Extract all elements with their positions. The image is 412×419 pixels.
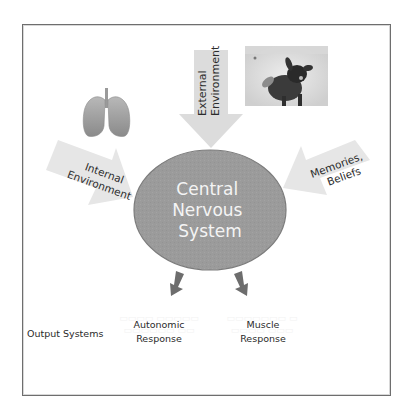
autonomic-line-1: Autonomic — [120, 318, 198, 332]
central-nervous-system: Central Nervous System — [134, 150, 286, 270]
external-line-1: External — [196, 70, 209, 116]
cns-line-2: Nervous — [172, 200, 242, 220]
internal-environment-arrow: Internal Environment — [46, 140, 137, 205]
autonomic-response-label: Autonomic Response — [120, 318, 198, 346]
muscle-response-label: Muscle Response — [224, 318, 302, 346]
autonomic-output-arrow — [170, 271, 184, 296]
muscle-arrow-shape — [234, 271, 248, 296]
diagram-canvas: External Environment Internal Environmen… — [0, 0, 412, 419]
dog-photo — [245, 46, 328, 106]
muscle-output-arrow — [234, 271, 248, 296]
muscle-line-1: Muscle — [224, 318, 302, 332]
cns-label: Central Nervous System — [172, 179, 248, 241]
external-environment-arrow: External Environment — [179, 45, 243, 148]
cns-line-1: Central — [176, 179, 238, 199]
output-systems-heading: Output Systems — [27, 327, 107, 341]
external-line-2: Environment — [209, 45, 222, 116]
memories-beliefs-arrow: Memories, Beliefs — [283, 140, 372, 195]
autonomic-arrow-shape — [170, 271, 184, 296]
muscle-line-2: Response — [224, 332, 302, 346]
lungs-icon — [83, 88, 130, 137]
autonomic-line-2: Response — [120, 332, 198, 346]
cns-line-3: System — [178, 221, 241, 241]
